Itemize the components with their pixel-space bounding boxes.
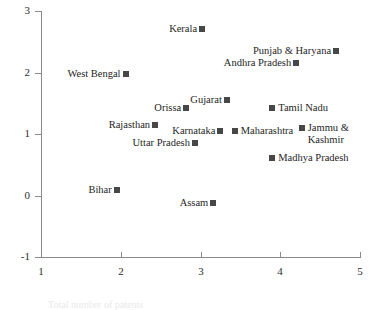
y-tick-mark — [35, 73, 41, 74]
data-point-marker[interactable] — [299, 125, 305, 131]
data-point-marker[interactable] — [269, 105, 275, 111]
data-point-label: Rajasthan — [109, 119, 150, 131]
y-tick-label: 0 — [8, 190, 30, 201]
data-point-label: Madhya Pradesh — [278, 152, 348, 164]
data-point-label: Bihar — [88, 184, 111, 196]
x-tick-label: 4 — [270, 266, 290, 277]
y-tick-label: -1 — [8, 251, 30, 262]
x-tick-label: 3 — [191, 266, 211, 277]
data-point-label: Tamil Nadu — [278, 102, 328, 114]
data-point-label: Maharashtra — [241, 125, 293, 137]
data-point-label: Gujarat — [190, 94, 222, 106]
data-point-label: Assam — [180, 197, 209, 209]
data-point-label: Jammu &Kashmir — [308, 122, 370, 145]
y-axis-line — [41, 11, 42, 258]
x-tick-mark — [41, 252, 42, 258]
y-tick-mark — [35, 196, 41, 197]
x-tick-label: 2 — [111, 266, 131, 277]
x-tick-mark — [280, 252, 281, 258]
data-point-marker[interactable] — [232, 128, 238, 134]
data-point-marker[interactable] — [199, 26, 205, 32]
data-point-marker[interactable] — [224, 97, 230, 103]
x-tick-mark — [201, 252, 202, 258]
x-tick-label: 1 — [31, 266, 51, 277]
data-point-label: Karnataka — [172, 125, 215, 137]
data-point-marker[interactable] — [192, 140, 198, 146]
y-tick-mark — [35, 11, 41, 12]
y-tick-mark — [35, 134, 41, 135]
data-point-marker[interactable] — [269, 155, 275, 161]
data-point-marker[interactable] — [183, 105, 189, 111]
y-tick-label: 3 — [8, 5, 30, 16]
y-tick-label: 1 — [8, 128, 30, 139]
data-point-marker[interactable] — [293, 60, 299, 66]
y-tick-label: 2 — [8, 67, 30, 78]
data-point-label: Punjab & Haryana — [253, 45, 331, 57]
data-point-marker[interactable] — [210, 200, 216, 206]
data-point-marker[interactable] — [123, 71, 129, 77]
x-tick-mark — [121, 252, 122, 258]
data-point-marker[interactable] — [333, 48, 339, 54]
data-point-label: West Bengal — [67, 68, 120, 80]
data-point-label: Andhra Pradesh — [224, 57, 291, 69]
data-point-label: Uttar Pradesh — [132, 137, 189, 149]
x-tick-label: 5 — [350, 266, 370, 277]
data-point-label: Kerala — [169, 23, 197, 35]
data-point-label: Orissa — [154, 102, 181, 114]
data-point-marker[interactable] — [114, 187, 120, 193]
data-point-marker[interactable] — [152, 122, 158, 128]
data-point-marker[interactable] — [217, 128, 223, 134]
x-tick-mark — [360, 252, 361, 258]
footer-ghost-text: Total number of patents — [48, 299, 143, 310]
